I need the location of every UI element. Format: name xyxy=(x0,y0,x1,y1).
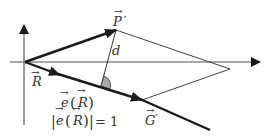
svg-text:R: R xyxy=(31,74,42,89)
svg-text:|: | xyxy=(89,113,94,130)
label-p-prime: → P ′ xyxy=(112,6,127,29)
svg-text:= 1: = 1 xyxy=(95,114,118,129)
svg-text:G: G xyxy=(145,113,155,128)
svg-text:|: | xyxy=(51,113,56,130)
svg-text:R: R xyxy=(72,113,83,128)
thin-outline xyxy=(116,30,230,100)
label-g-prime: → G ′ xyxy=(145,105,158,128)
svg-text:′: ′ xyxy=(155,112,158,125)
svg-text:′: ′ xyxy=(124,14,127,27)
svg-text:(: ( xyxy=(65,112,71,130)
vector-p-prime xyxy=(25,30,116,62)
svg-text:): ) xyxy=(88,94,94,112)
label-d: d xyxy=(112,43,120,58)
vector-diagram: → P ′ d → R → G ′ → e ( → R ) | → e ( → … xyxy=(0,0,272,139)
svg-text:e: e xyxy=(56,113,64,128)
svg-text:P: P xyxy=(112,14,122,29)
label-r: → R xyxy=(31,67,42,89)
svg-text:): ) xyxy=(83,112,89,130)
